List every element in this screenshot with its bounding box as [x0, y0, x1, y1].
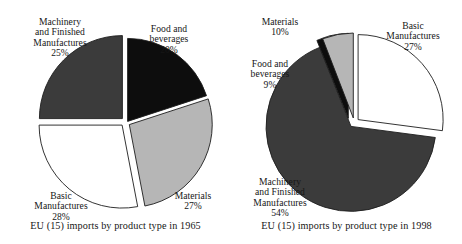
slice-label-materials-text-1998: Materials — [262, 16, 299, 27]
slice-label-machinery-text-1998: Machinery and Finished Manufactures — [253, 176, 306, 208]
slice-label-food-and-beverages-text-1998: Food and beverages — [251, 58, 290, 80]
slice-label-basic-manufactures-text-1965: Basic Manufactures — [34, 190, 87, 212]
slice-label-materials-pct-1998: 10% — [247, 27, 313, 38]
slice-label-materials-pct-1965: 27% — [159, 201, 227, 212]
chart-caption-1965: EU (15) imports by product type in 1965 — [0, 220, 231, 231]
chart-panel-1965: Machinery and Finished Manufactures 25% … — [0, 0, 231, 244]
slice-label-machinery-text-1965: Machinery and Finished Manufactures — [33, 16, 86, 48]
slice-label-basic-manufactures-text-1998: Basic Manufactures — [386, 20, 439, 42]
slice-label-food-and-beverages-1998: Food and beverages 9% — [232, 48, 308, 101]
slice-label-basic-manufactures-1998: Basic Manufactures 27% — [368, 10, 458, 63]
slice-label-machinery-pct-1998: 54% — [234, 208, 326, 219]
slice-label-machinery-1965: Machinery and Finished Manufactures 25% — [12, 6, 108, 70]
slice-label-materials-text-1965: Materials — [175, 190, 212, 201]
slice-label-materials-1965: Materials 27% — [159, 180, 227, 222]
pie-chart-figure: Machinery and Finished Manufactures 25% … — [0, 0, 462, 244]
chart-panel-1998: Materials 10% Basic Manufactures 27% Foo… — [231, 0, 462, 244]
slice-label-food-and-beverages-pct-1998: 9% — [232, 80, 308, 91]
slice-label-basic-manufactures-pct-1998: 27% — [368, 42, 458, 53]
slice-label-materials-1998: Materials 10% — [247, 6, 313, 48]
slice-label-food-and-beverages-text-1965: Food and beverages — [150, 23, 189, 45]
slice-label-food-and-beverages-pct-1965: 20% — [132, 45, 206, 56]
slice-label-food-and-beverages-1965: Food and beverages 20% — [132, 13, 206, 66]
chart-caption-1998: EU (15) imports by product type in 1998 — [231, 220, 462, 231]
slice-label-machinery-pct-1965: 25% — [12, 48, 108, 59]
